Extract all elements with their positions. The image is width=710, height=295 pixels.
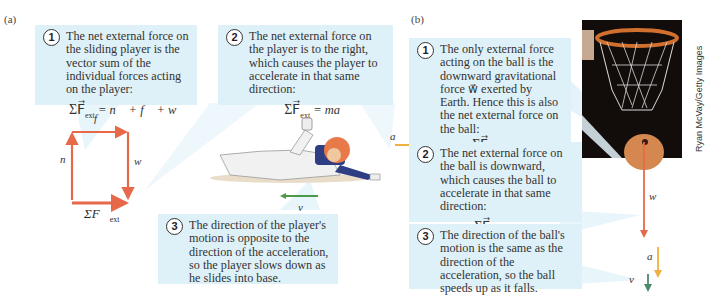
callout-text: The direction of the ball's motion is th… <box>440 229 574 295</box>
callout-text: The direction of the player's motion is … <box>189 219 330 285</box>
panel-b-label: (b) <box>411 13 424 25</box>
callout-a1: 1 The net external force on the sliding … <box>35 25 197 105</box>
callout-a2: 2 The net external force on the player i… <box>218 25 393 105</box>
v-vector-label-b: v⃗ <box>629 273 642 285</box>
step-number-badge: 1 <box>43 29 60 46</box>
callout-a3: 3 The direction of the player's motion i… <box>158 214 338 284</box>
callout-text: The only external force acting on the ba… <box>440 43 563 136</box>
velocity-arrow-a <box>280 192 320 200</box>
step-number-badge: 1 <box>417 42 434 59</box>
n-vector-label: n⃗ <box>60 153 74 165</box>
callout-b2: 2 The net external force on the ball is … <box>409 142 582 222</box>
callout-b3: 3 The direction of the ball's motion is … <box>409 224 582 289</box>
callout-text: The net external force on the sliding pl… <box>66 30 189 96</box>
sliding-player-illustration <box>220 110 400 190</box>
net-force-label: ΣF⃗ext <box>84 206 120 224</box>
basketball-photo <box>582 20 682 158</box>
callout-text: The net external force on the ball is do… <box>440 147 574 213</box>
step-number-badge: 3 <box>166 218 183 235</box>
a-vector-label: a⃗ <box>390 130 404 142</box>
step-number-badge: 2 <box>417 146 434 163</box>
force-vector-diagram <box>60 120 160 220</box>
callout-text: The net external force on the player is … <box>249 30 385 96</box>
v-vector-label: v⃗ <box>298 201 311 213</box>
f-vector-label: f⃗ <box>94 112 106 124</box>
w-vector-label-b: w⃗ <box>649 190 665 202</box>
step-number-badge: 2 <box>226 29 243 46</box>
a-vector-label-b: a⃗ <box>647 250 661 262</box>
w-vector-label: w⃗ <box>134 155 150 167</box>
step-number-badge: 3 <box>417 228 434 245</box>
callout-b1: 1 The only external force acting on the … <box>409 38 571 146</box>
ball-vectors <box>630 142 700 292</box>
photo-credit: Ryan McVay/Getty Images <box>694 46 704 152</box>
